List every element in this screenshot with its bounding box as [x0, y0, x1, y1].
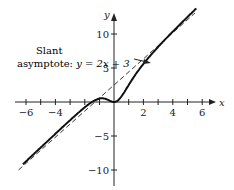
x-tick-label: 6 [199, 107, 205, 118]
chart-canvas: −6 −4 2 4 6 x 10 5 −5 −10 y [0, 0, 234, 190]
x-axis-label: x [219, 97, 225, 108]
y-tick-label: 10 [96, 29, 109, 40]
y-tick-label: −5 [94, 131, 109, 142]
x-tick-label: −6 [19, 107, 34, 118]
x-axis-arrow-icon [209, 99, 216, 105]
y-axis-label: y [103, 9, 110, 20]
y-axis-arrow-icon [111, 13, 117, 21]
annotation-prefix: asymptote: [17, 58, 76, 69]
x-tick-label: −4 [48, 107, 63, 118]
x-tick-label: 2 [140, 107, 146, 118]
annotation-equation: y = 2x + 3 [76, 58, 130, 69]
function-curve [23, 8, 196, 164]
y-tick-label: −10 [88, 165, 109, 176]
annotation-label-line1: Slant [36, 44, 62, 57]
x-tick-label: 4 [170, 107, 176, 118]
annotation-label-line2: asymptote: y = 2x + 3 [17, 57, 130, 70]
